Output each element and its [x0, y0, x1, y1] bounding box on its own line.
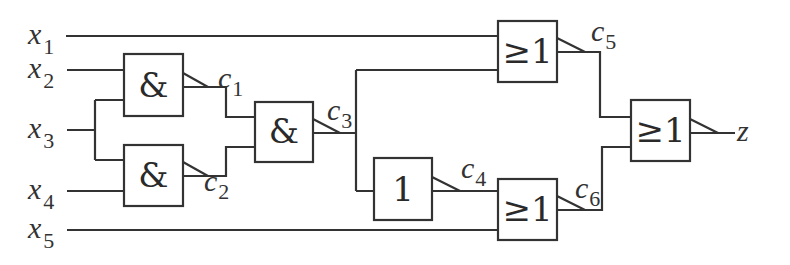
svg-text:z: z	[736, 114, 749, 147]
logic-circuit-diagram: x1 x2 x3 x4 x5	[0, 0, 790, 265]
signal-label-c5: c5	[591, 14, 616, 54]
gate-and3: &	[255, 102, 313, 162]
svg-text:≥1: ≥1	[635, 110, 685, 150]
gate-or5: ≥1	[498, 21, 557, 82]
svg-text:x5: x5	[27, 211, 54, 253]
svg-text:&: &	[138, 65, 168, 105]
svg-text:≥1: ≥1	[502, 189, 552, 229]
svg-text:&: &	[269, 111, 299, 151]
gate-or6: ≥1	[498, 179, 557, 240]
wire-x3	[67, 100, 124, 160]
input-label-x3: x3	[27, 111, 54, 153]
svg-text:1: 1	[392, 169, 414, 209]
svg-text:&: &	[138, 155, 168, 195]
svg-text:c1: c1	[218, 61, 243, 101]
gate-not1: 1	[374, 158, 432, 220]
input-label-x5: x5	[27, 211, 54, 253]
signal-label-c1: c1	[218, 61, 243, 101]
svg-text:x4: x4	[27, 172, 54, 214]
input-label-x4: x4	[27, 172, 54, 214]
svg-text:c6: c6	[575, 171, 600, 211]
gate-or7: ≥1	[631, 100, 690, 161]
svg-text:c5: c5	[591, 14, 616, 54]
gate-and1: &	[124, 54, 183, 116]
signal-label-c6: c6	[575, 171, 600, 211]
wire-c2	[183, 147, 255, 176]
output-label-z: z	[736, 114, 749, 147]
gate-and2: &	[124, 145, 183, 206]
wire-c5	[557, 52, 631, 117]
svg-text:≥1: ≥1	[502, 31, 552, 71]
svg-text:c4: c4	[461, 151, 486, 191]
svg-text:x3: x3	[27, 111, 54, 153]
signal-label-c4: c4	[461, 151, 486, 191]
